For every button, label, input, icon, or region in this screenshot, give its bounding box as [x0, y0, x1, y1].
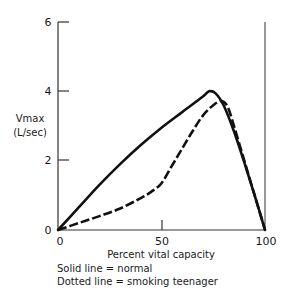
y-tick-label: 4	[45, 85, 52, 98]
series-smoking-teenager-line	[58, 101, 265, 230]
y-tick-label: 0	[45, 224, 52, 237]
x-tick-label: 50	[155, 235, 169, 248]
series-normal-line	[58, 91, 265, 230]
y-tick-label: 6	[45, 16, 52, 29]
y-tick-label: 2	[45, 154, 52, 167]
x-tick-label: 100	[256, 235, 277, 248]
y-axis-title-line2: (L/sec)	[13, 127, 47, 138]
x-axis-title: Percent vital capacity	[107, 249, 215, 260]
flow-volume-chart: 6 4 2 0 0 50 100 Percent vital capacity …	[0, 0, 288, 292]
x-tick-label: 0	[57, 235, 64, 248]
legend-dotted: Dotted line = smoking teenager	[57, 276, 218, 288]
legend-solid: Solid line = normal	[57, 263, 152, 275]
y-axis-title-line1: Vmax	[16, 113, 45, 124]
